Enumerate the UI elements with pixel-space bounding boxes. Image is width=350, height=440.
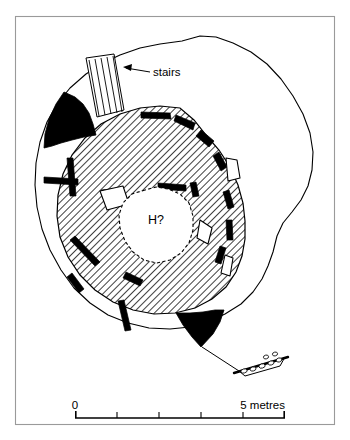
figure-root: H? stairs bbox=[0, 0, 350, 440]
scale-start-label: 0 bbox=[72, 399, 78, 411]
scale-bar: 0 5 metres bbox=[72, 399, 285, 418]
black-wall-mass-southeast bbox=[176, 310, 224, 347]
rubble-fragment bbox=[276, 357, 282, 362]
hearth-label: H? bbox=[148, 213, 164, 227]
rubble-fragment bbox=[258, 363, 265, 369]
passage-rubble-fragments bbox=[240, 351, 282, 373]
rubble-fragment bbox=[263, 354, 269, 359]
stairs-label: stairs bbox=[153, 66, 181, 78]
wall-segment bbox=[226, 220, 233, 240]
site-plan-drawing: H? stairs bbox=[0, 0, 350, 440]
scale-end-label: 5 metres bbox=[240, 399, 285, 411]
rubble-fragment bbox=[240, 368, 247, 374]
rubble-fragment bbox=[268, 360, 275, 365]
rubble-fragment bbox=[272, 351, 278, 356]
wall-segment bbox=[141, 112, 171, 119]
